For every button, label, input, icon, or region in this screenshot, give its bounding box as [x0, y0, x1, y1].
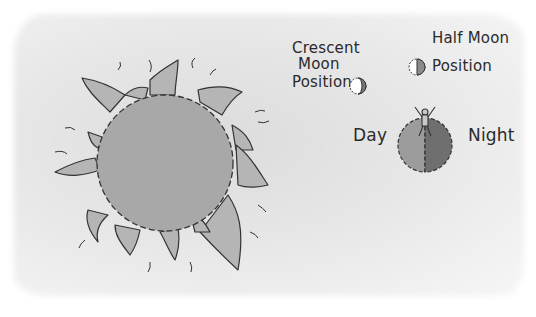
- crescent-label-line1: Crescent: [292, 40, 360, 56]
- sun-body: [97, 95, 233, 231]
- half-moon-label: Half Moon: [432, 30, 509, 46]
- night-label: Night: [468, 127, 515, 143]
- earth-icon: [393, 104, 457, 184]
- half-moon-label-line2: Position: [432, 58, 492, 74]
- crescent-label-line2: Moon: [298, 56, 360, 72]
- half-moon-position-label: Position: [432, 58, 492, 74]
- half-moon-label-line1: Half Moon: [432, 30, 509, 46]
- half-moon-icon: [407, 57, 427, 77]
- crescent-moon-icon: [348, 76, 368, 96]
- day-label: Day: [353, 127, 387, 143]
